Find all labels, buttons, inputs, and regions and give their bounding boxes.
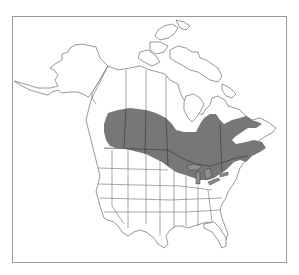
arctic-island xyxy=(155,24,178,40)
alaska xyxy=(14,44,108,97)
arctic-island xyxy=(176,20,190,30)
lake-michigan xyxy=(196,172,200,184)
arctic-island xyxy=(150,42,168,54)
range-map xyxy=(0,0,299,275)
arctic-island xyxy=(222,84,236,98)
arctic-island xyxy=(170,46,222,82)
